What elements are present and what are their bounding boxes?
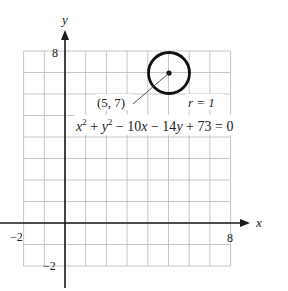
y-axis-arrow-icon [61,30,69,40]
equation-label: x2 + y2 − 10x − 14y + 73 = 0 [75,117,233,134]
center-leader-line [133,73,169,104]
x-max-tick-label: 8 [227,231,233,245]
y-axis-label: y [60,12,68,27]
y-axis [61,30,69,288]
x-min-tick-label: −2 [10,230,23,244]
center-label: (5, 7) [97,95,125,110]
x-axis [0,219,250,227]
y-min-tick-label: −2 [43,259,56,273]
x-axis-label: x [255,215,262,230]
circle-graph: x y −2 8 8 −2 (5, 7) r = 1 x2 + y2 − 10x… [0,0,288,291]
radius-label: r = 1 [188,95,215,110]
grid [24,51,231,266]
y-max-tick-label: 8 [52,46,58,60]
x-axis-arrow-icon [240,219,250,227]
